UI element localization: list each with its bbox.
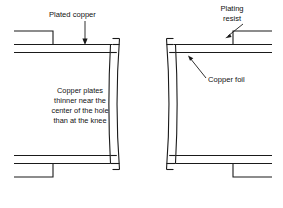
copper-foil-arrowhead	[188, 55, 193, 60]
label-plated-copper: Plated copper	[49, 10, 96, 19]
plating-resist-arrowhead	[225, 34, 231, 38]
right-resist-top-edge	[174, 31, 273, 45]
right-barrel-inner-wall	[176, 45, 178, 164]
label-plating-resist-line1: Plating	[220, 4, 243, 13]
right-half-section: Plating resist Copper foil	[167, 4, 273, 177]
right-barrel-outer-wall	[167, 39, 170, 170]
left-half-section: Plated copper Copper plates thinner near…	[14, 10, 120, 177]
note-line-2: thinner near the	[54, 96, 106, 105]
pth-cross-section-svg: Plated copper Copper plates thinner near…	[0, 0, 283, 208]
diagram-canvas: Plated copper Copper plates thinner near…	[0, 0, 283, 208]
label-copper-foil: Copper foil	[208, 75, 245, 84]
left-resist-top-edge	[14, 31, 113, 45]
copper-foil-leader-line	[190, 58, 206, 78]
note-line-1: Copper plates	[57, 86, 103, 95]
plating-resist-leader-line	[228, 24, 243, 36]
left-barrel-inner-wall	[109, 45, 111, 164]
note-line-3: center of the hole	[51, 106, 108, 115]
right-resist-bottom-edge	[233, 164, 272, 178]
left-resist-bottom-edge	[14, 164, 53, 178]
note-line-4: than at the knee	[53, 116, 106, 125]
left-barrel-outer-wall	[117, 39, 120, 170]
label-plating-resist-line2: resist	[223, 14, 242, 23]
